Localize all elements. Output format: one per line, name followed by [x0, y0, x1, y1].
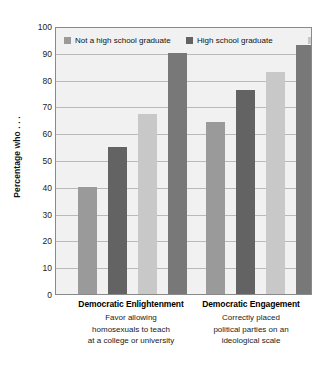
legend: Not a high school graduateHigh school gr… [64, 34, 308, 47]
bar [108, 147, 127, 294]
y-tick-label: 40 [24, 183, 52, 193]
y-tick-label: 20 [24, 236, 52, 246]
y-tick-label: 100 [24, 22, 52, 32]
category-description-line: homosexuals to teach [67, 324, 195, 336]
y-tick-label: 30 [24, 210, 52, 220]
bar [266, 72, 285, 294]
y-tick-label: 70 [24, 102, 52, 112]
y-tick-label: 50 [24, 156, 52, 166]
legend-entry: Not a high school graduate [64, 37, 186, 45]
legend-swatch-icon [64, 37, 71, 44]
y-axis-tick-labels: 1009080706050403020100 [24, 27, 52, 295]
y-axis-title: Percentage who . . . [12, 77, 22, 237]
category-captions: Democratic EnlightenmentFavor allowingho… [55, 299, 312, 366]
bar [206, 122, 225, 294]
legend-entry: High school graduate [186, 37, 308, 45]
bar [236, 90, 255, 294]
category-title: Democratic Engagement [187, 299, 315, 309]
category-description-line: ideological scale [187, 335, 315, 347]
bars-layer [56, 28, 311, 294]
legend-swatch-icon [186, 37, 193, 44]
legend-swatch-icon [308, 37, 312, 44]
category-caption: Democratic EngagementCorrectly placedpol… [187, 299, 315, 347]
legend-entry: Some college [308, 37, 312, 45]
category-description-line: at a college or university [67, 335, 195, 347]
category-description: Favor allowinghomosexuals to teachat a c… [67, 312, 195, 347]
y-tick-label: 10 [24, 263, 52, 273]
bar [168, 53, 187, 294]
legend-label: High school graduate [197, 37, 273, 45]
y-tick-label: 90 [24, 49, 52, 59]
bar-chart: Percentage who . . . 1009080706050403020… [0, 0, 325, 366]
bar [78, 187, 97, 294]
y-tick-label: 0 [24, 290, 52, 300]
plot-area: Not a high school graduateHigh school gr… [55, 27, 312, 295]
bar [138, 114, 157, 294]
y-tick-label: 60 [24, 129, 52, 139]
category-title: Democratic Enlightenment [67, 299, 195, 309]
category-description-line: political parties on an [187, 324, 315, 336]
category-description-line: Favor allowing [67, 312, 195, 324]
y-tick-label: 80 [24, 76, 52, 86]
category-caption: Democratic EnlightenmentFavor allowingho… [67, 299, 195, 347]
category-description-line: Correctly placed [187, 312, 315, 324]
bar [296, 45, 312, 294]
legend-label: Not a high school graduate [75, 37, 171, 45]
category-description: Correctly placedpolitical parties on ani… [187, 312, 315, 347]
